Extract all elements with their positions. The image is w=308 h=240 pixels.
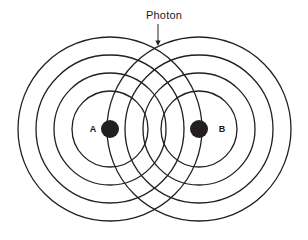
photon-label: Photon [146, 9, 182, 21]
source-a-label: A [90, 124, 97, 134]
wave-interference-diagram: A B Photon [0, 0, 308, 240]
source-b-label: B [219, 124, 226, 134]
diagram-background [0, 0, 308, 240]
source-a-dot [101, 120, 119, 138]
diagram-canvas: A B Photon [0, 0, 308, 240]
source-b-dot [190, 120, 208, 138]
